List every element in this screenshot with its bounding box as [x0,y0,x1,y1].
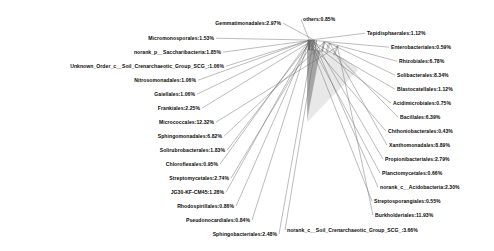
leader-line-group [197,19,398,234]
pie-slice-label: JG30-KF-CM45:1.28% [171,190,224,195]
pie-slice-label: Chloroflexales:0.95% [166,162,218,167]
pie-slice-label: Bacillales:6.39% [400,115,440,120]
pie-slice-label: Rhodospirillales:0.86% [177,204,234,209]
pie-wedge-group [307,49,358,122]
pie-slice-label: Burkholderiales:11.93% [375,213,433,218]
pie-slice-label: Solibacterales:8.34% [397,73,449,78]
pie-slice-label: Solirubrobacterales:1.83% [160,148,225,153]
pie-slice-label: Micrococcales:12.32% [159,120,214,125]
pie-slice-label: Planctomycetales:0.66% [382,171,442,176]
pie-slice-label: Propionibacteriales:2.79% [385,157,450,162]
pie-slice-label: norank_p__Saccharibacteria:1.85% [134,50,221,55]
pie-slice-label: Tepidisphaerales:1.12% [367,31,425,36]
pie-slice-label: Streptosporangiales:0.55% [374,199,441,204]
pie-leader-line [310,33,365,50]
pie-slice-label: Enterobacteriales:0.59% [391,45,451,50]
pie-slice-label: Gaiellales:1.06% [154,92,195,97]
pie-slice-label: Chthoniobacterales:0.43% [388,129,453,134]
pie-leader-line [223,40,312,52]
pie-leader-line [231,40,314,178]
pie-slice-label: Micromonosporales:1.53% [148,36,214,41]
pie-slice-label: others:0.85% [303,17,335,22]
pie-leader-line [220,40,309,164]
pie-slice-label: norank_c__Acidobacteria:2.30% [380,185,460,190]
pie-slice-label: Blastocatellales:1.12% [397,87,453,92]
pie-slice-label: Sphingomonadales:6.82% [158,134,222,139]
pie-slice-label: Xanthomonadales:8.89% [389,143,450,148]
pie-slice-label: Acidimicrobiales:0.75% [393,101,451,106]
pie-slice-label: Nitrosomonadales:1.06% [134,78,196,83]
pie-slice-label: Sphingobacteriales:2.48% [213,232,277,237]
pie-slice-label: Unknown_Order_c__Soil_Crenarchaeotic_Gro… [70,64,224,69]
pie-slice-label: Frankiales:2.25% [158,106,200,111]
pie-chart-figure: others:0.85%Tepidisphaerales:1.12%Entero… [0,0,494,251]
pie-slice-label: Pseudonocardiales:0.84% [186,218,250,223]
pie-slice-label: Streptomycetales:2.74% [169,176,229,181]
pie-slice-label: norank_c__Soil_Crenarchaeotic_Group_SCG_… [287,228,418,233]
pie-leader-line [227,40,312,150]
pie-slice-label: Rhizobiales:6.78% [399,59,444,64]
pie-leader-line [226,40,310,66]
pie-slice-label: Gemmatimonadales:2.97% [215,21,281,26]
